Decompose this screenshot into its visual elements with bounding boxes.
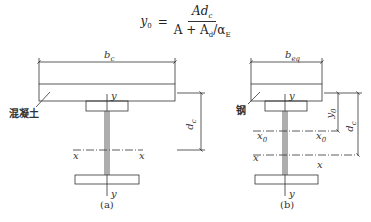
- section-diagrams: [0, 0, 371, 222]
- fig-b-width-label: beq: [285, 50, 300, 63]
- fig-b-y-top: y: [289, 91, 295, 101]
- fig-a-x-left: x: [73, 151, 79, 161]
- fig-b-material-label: 钢: [236, 106, 246, 116]
- fig-b-y0-label: y0: [325, 108, 338, 118]
- fig-a-depth-label: dc: [185, 119, 198, 129]
- fig-a-y-top: y: [111, 91, 117, 101]
- fig-b-x0-right: x0: [316, 131, 326, 144]
- fig-b-caption: (b): [280, 199, 294, 210]
- fig-b-depth-label: dc: [345, 121, 358, 131]
- fig-a-caption: (a): [100, 199, 114, 210]
- fig-b-x-left: x: [253, 153, 259, 163]
- fig-b-x-right: x: [317, 160, 323, 170]
- fig-a-material-label: 混凝土: [9, 109, 39, 119]
- fig-b-y-bottom: y: [289, 189, 295, 199]
- fig-a-y-bottom: y: [111, 189, 117, 199]
- fig-a-x-right: x: [139, 151, 145, 161]
- fig-b-x0-left: x0: [257, 131, 267, 144]
- fig-a-width-label: bc: [104, 50, 114, 63]
- figure-a-geometry: [36, 58, 205, 196]
